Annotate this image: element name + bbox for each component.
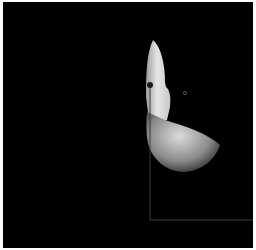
lower-shape	[146, 112, 220, 172]
small-ring-marker	[183, 91, 186, 94]
image-canvas	[3, 2, 253, 248]
scene-graphic	[3, 2, 253, 248]
marker-dot	[147, 82, 153, 88]
